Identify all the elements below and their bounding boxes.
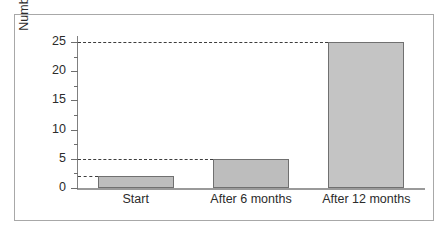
y-tick-label: 20 [40,71,66,72]
x-axis-line [77,188,425,190]
x-tick-label: After 12 months [309,193,424,207]
y-minor-tick-mark [74,144,78,145]
y-tick-mark [71,188,78,189]
x-tick-label: Start [78,193,193,207]
y-tick-label-text: 10 [52,123,66,136]
y-tick-label: 25 [40,42,66,43]
x-tick-label: After 6 months [193,193,308,207]
y-tick-label-text: 25 [52,35,66,48]
dashed-reference-line [78,159,213,160]
y-tick-label: 15 [40,100,66,101]
y-tick-label-text: 0 [59,181,66,194]
y-tick-label: 0 [40,188,66,189]
y-minor-tick-mark [74,57,78,58]
y-minor-tick-mark [74,86,78,87]
y-minor-tick-mark [74,115,78,116]
y-tick-mark [71,42,78,43]
y-tick-label: 5 [40,159,66,160]
bar-after-6-months [213,159,289,188]
y-tick-mark [71,130,78,131]
bar-chart-figure: Number of rabbits 0510152025 StartAfter … [0,0,444,237]
bar-after-12-months [328,42,404,188]
bar-start [98,176,174,188]
dashed-reference-line [78,42,328,43]
y-tick-label-text: 15 [52,93,66,106]
y-tick-mark [71,159,78,160]
y-minor-tick-mark [74,173,78,174]
y-axis-line [77,36,78,189]
y-tick-mark [71,71,78,72]
y-tick-label-text: 5 [59,152,66,165]
y-axis-title: Number of rabbits [18,0,36,56]
y-tick-label: 10 [40,130,66,131]
dashed-reference-line [78,176,98,177]
y-tick-label-text: 20 [52,64,66,77]
y-tick-mark [71,100,78,101]
